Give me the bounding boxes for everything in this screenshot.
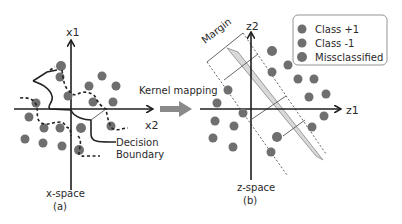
- data-point: [109, 98, 118, 107]
- legend-label: Missclassified: [315, 52, 383, 63]
- data-point: [322, 90, 331, 99]
- data-point: [21, 135, 30, 144]
- data-point: [268, 68, 277, 77]
- data-point: [284, 61, 293, 70]
- data-point: [112, 82, 121, 91]
- decision-boundary-link: [91, 109, 106, 120]
- legend: Class +1 Class -1 Missclassified: [293, 15, 387, 65]
- panel-a-caption: x-space: [46, 188, 85, 199]
- data-point: [76, 123, 86, 133]
- x1-axis-label: x1: [66, 26, 80, 39]
- data-point: [229, 143, 238, 152]
- data-point: [267, 148, 276, 157]
- data-point: [267, 46, 277, 56]
- data-point: [85, 82, 94, 91]
- data-point: [89, 98, 98, 107]
- panel-b-caption: z-space: [237, 182, 275, 193]
- legend-label: Class -1: [315, 38, 354, 49]
- decision-boundary-curve: [33, 81, 116, 142]
- data-point: [211, 117, 220, 126]
- svm-kernel-diagram: x1 x2: [0, 0, 402, 224]
- legend-dot-icon: [297, 52, 307, 62]
- data-point: [56, 124, 65, 133]
- z2-axis-label: z2: [246, 20, 259, 33]
- margin-label: Margin: [199, 16, 233, 46]
- panel-b-caption-letter: (b): [243, 195, 257, 206]
- data-point: [209, 134, 218, 143]
- data-point: [294, 75, 303, 84]
- arrow-head-icon: [179, 101, 192, 117]
- data-point: [98, 72, 107, 81]
- margin-line-lower: [207, 62, 287, 175]
- data-point: [224, 86, 233, 95]
- decision-label-line1: Decision: [116, 137, 159, 148]
- data-point: [39, 139, 48, 148]
- data-point: [272, 132, 282, 142]
- data-point: [213, 99, 222, 108]
- decision-label-line2: Boundary: [116, 149, 164, 160]
- data-point: [320, 112, 329, 121]
- panel-a-x-space: x1 x2: [14, 26, 164, 212]
- legend-dot-icon: [298, 39, 307, 48]
- panel-a-caption-letter: (a): [53, 201, 67, 212]
- data-point: [230, 122, 239, 131]
- z1-axis-label: z1: [346, 104, 359, 117]
- kernel-mapping-label: Kernel mapping: [139, 85, 218, 96]
- x2-axis-label: x2: [145, 119, 159, 132]
- legend-dot-icon: [298, 25, 307, 34]
- data-point: [58, 142, 67, 151]
- decision-boundary-branch: [33, 70, 57, 81]
- data-point: [239, 109, 248, 118]
- data-point: [310, 75, 319, 84]
- data-point: [305, 93, 314, 102]
- data-point: [25, 113, 34, 122]
- data-point: [64, 92, 73, 101]
- data-point: [308, 123, 317, 132]
- arrow-shaft: [160, 106, 180, 112]
- legend-label: Class +1: [315, 24, 359, 35]
- kernel-mapping-arrow: Kernel mapping: [139, 85, 218, 117]
- data-point: [56, 61, 66, 71]
